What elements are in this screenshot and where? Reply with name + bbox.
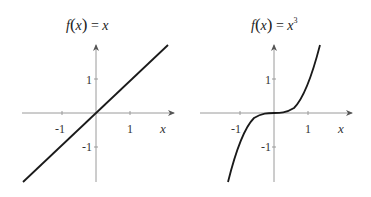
y-tick-label-neg: -1 <box>82 140 92 154</box>
x-tick-label-neg: -1 <box>55 122 65 136</box>
plot-linear: f(x) = x -1 1 1 -1 x <box>22 15 174 182</box>
plot-title-linear: f(x) = x <box>66 15 109 34</box>
y-tick-label-pos: 1 <box>265 73 271 87</box>
x-axis-label: x <box>337 121 344 136</box>
x-tick-label-pos: 1 <box>305 122 311 136</box>
x-tick-label-pos: 1 <box>127 122 133 136</box>
y-tick-label-neg: -1 <box>261 140 271 154</box>
plot-cubic: f(x) = x3 -1 1 1 -1 x <box>200 15 352 182</box>
x-tick-label-neg: -1 <box>231 122 241 136</box>
x-axis-label: x <box>159 121 166 136</box>
function-plots: f(x) = x -1 1 1 -1 x f(x) = x3 -1 1 1 -1… <box>0 0 371 197</box>
plot-title-cubic: f(x) = x3 <box>251 15 298 34</box>
y-tick-label-pos: 1 <box>86 73 92 87</box>
